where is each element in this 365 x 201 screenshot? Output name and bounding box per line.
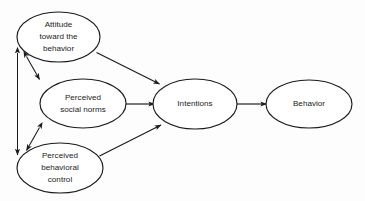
node-behavior-label: Behavior [293, 99, 325, 108]
node-behavioral-control-label-line-1: Perceived [42, 151, 78, 160]
node-attitude-label-line-1: Attitude [45, 20, 73, 29]
node-social-norms[interactable]: Perceived social norms [40, 79, 126, 128]
edge-attitude-social-norms-link [27, 57, 40, 80]
node-behavioral-control-label-line-3: control [48, 175, 73, 184]
node-behavioral-control[interactable]: Perceived behavioral control [17, 143, 103, 193]
diagram-canvas: Attitude toward the behavior Perceived s… [0, 0, 365, 201]
node-attitude[interactable]: Attitude toward the behavior [17, 12, 100, 62]
node-social-norms-label-line-2: social norms [60, 105, 106, 114]
node-behavior[interactable]: Behavior [266, 80, 352, 128]
node-social-norms-shape[interactable] [40, 79, 126, 128]
edge-behavioral-control-to-intentions [100, 125, 162, 156]
edge-attitude-to-intentions [97, 53, 160, 85]
diagram-svg: Attitude toward the behavior Perceived s… [0, 0, 365, 201]
node-intentions[interactable]: Intentions [153, 79, 237, 129]
node-behavioral-control-label-line-2: behavioral [41, 163, 79, 172]
node-attitude-label-line-3: behavior [43, 44, 74, 53]
node-intentions-label: Intentions [177, 99, 212, 108]
node-social-norms-label-line-1: Perceived [65, 93, 101, 102]
node-attitude-label-line-2: toward the [40, 32, 78, 41]
